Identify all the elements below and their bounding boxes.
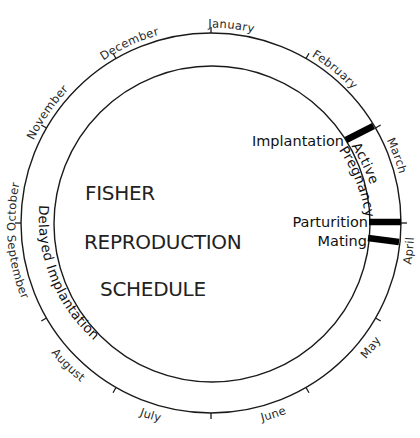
month-label-august: August: [49, 346, 88, 385]
month-label-may: May: [358, 333, 384, 361]
mating-label: Mating: [317, 233, 367, 249]
mating-marker: [368, 238, 399, 242]
month-label-november: November: [24, 82, 71, 142]
month-label-september: September: [4, 234, 32, 300]
delayed-implantation-label: Delayed Implantation: [36, 205, 104, 343]
title-line-2: REPRODUCTION: [84, 230, 241, 254]
title-line-1: FISHER: [85, 181, 155, 205]
month-label-july: July: [137, 405, 163, 425]
parturition-label: Parturition: [292, 214, 368, 230]
month-label-april: April: [400, 237, 417, 266]
reproduction-cycle-diagram: January February March April May June Ju…: [0, 0, 420, 438]
month-label-february: February: [310, 47, 361, 92]
implantation-marker: [346, 126, 374, 140]
title-line-3: SCHEDULE: [100, 277, 206, 301]
implantation-label: Implantation: [252, 133, 344, 149]
month-label-december: December: [97, 24, 160, 63]
